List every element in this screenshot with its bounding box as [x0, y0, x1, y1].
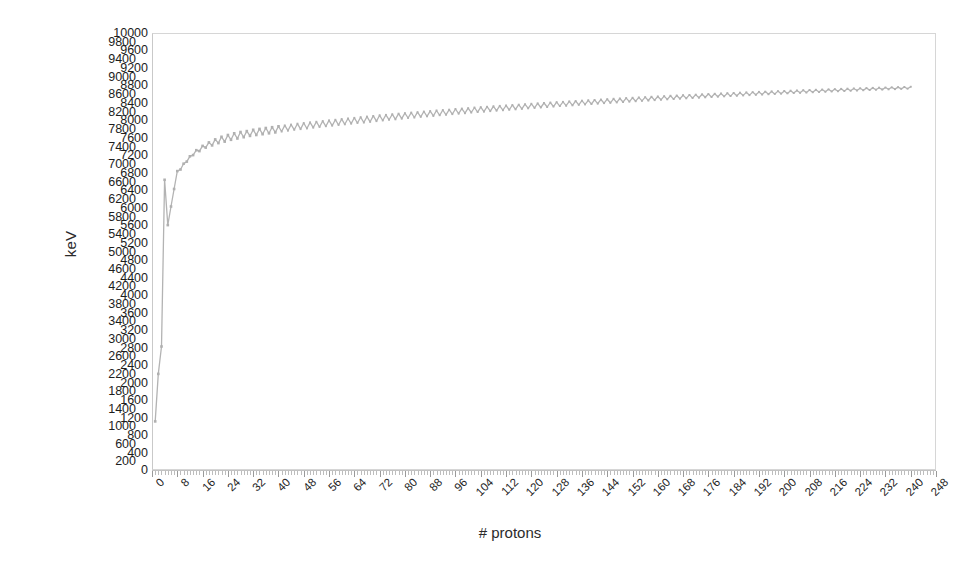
x-minor-tick — [500, 471, 501, 475]
x-minor-tick — [927, 471, 928, 475]
x-major-tick — [380, 471, 381, 477]
x-minor-tick — [320, 471, 321, 475]
x-minor-tick — [547, 471, 548, 475]
x-minor-tick — [313, 471, 314, 475]
x-minor-tick — [863, 471, 864, 475]
x-minor-tick — [282, 471, 283, 475]
x-minor-tick — [563, 471, 564, 475]
x-minor-tick — [459, 471, 460, 475]
x-minor-tick — [620, 471, 621, 475]
x-minor-tick — [263, 471, 264, 475]
x-minor-tick — [184, 471, 185, 475]
x-minor-tick — [794, 471, 795, 475]
x-minor-tick — [847, 471, 848, 475]
x-minor-tick — [161, 471, 162, 475]
x-minor-tick — [813, 471, 814, 475]
x-minor-tick — [598, 471, 599, 475]
x-minor-tick — [256, 471, 257, 475]
x-minor-tick — [370, 471, 371, 475]
x-major-tick — [354, 471, 355, 477]
x-minor-tick — [775, 471, 776, 475]
x-minor-tick — [838, 471, 839, 475]
x-minor-tick — [645, 471, 646, 475]
x-minor-tick — [721, 471, 722, 475]
x-minor-tick — [610, 471, 611, 475]
x-minor-tick — [519, 471, 520, 475]
x-minor-tick — [155, 471, 156, 475]
x-minor-tick — [889, 471, 890, 475]
x-minor-tick — [339, 471, 340, 475]
x-minor-tick — [727, 471, 728, 475]
x-minor-tick — [797, 471, 798, 475]
x-minor-tick — [822, 471, 823, 475]
x-minor-tick — [686, 471, 687, 475]
x-minor-tick — [642, 471, 643, 475]
x-minor-tick — [345, 471, 346, 475]
x-minor-tick — [383, 471, 384, 475]
x-minor-tick — [361, 471, 362, 475]
x-minor-tick — [484, 471, 485, 475]
x-minor-tick — [579, 471, 580, 475]
x-minor-tick — [787, 471, 788, 475]
x-minor-tick — [715, 471, 716, 475]
x-minor-tick — [689, 471, 690, 475]
x-minor-tick — [357, 471, 358, 475]
x-minor-tick — [266, 471, 267, 475]
x-major-tick — [329, 471, 330, 477]
x-minor-tick — [250, 471, 251, 475]
x-minor-tick — [244, 471, 245, 475]
x-major-tick — [506, 471, 507, 477]
x-minor-tick — [791, 471, 792, 475]
x-minor-tick — [781, 471, 782, 475]
x-minor-tick — [285, 471, 286, 475]
x-major-tick — [304, 471, 305, 477]
x-major-tick — [253, 471, 254, 477]
x-minor-tick — [898, 471, 899, 475]
x-minor-tick — [402, 471, 403, 475]
x-minor-tick — [437, 471, 438, 475]
x-minor-tick — [323, 471, 324, 475]
x-minor-tick — [440, 471, 441, 475]
x-major-tick — [455, 471, 456, 477]
x-minor-tick — [288, 471, 289, 475]
x-major-tick — [835, 471, 836, 477]
x-minor-tick — [920, 471, 921, 475]
x-minor-tick — [180, 471, 181, 475]
x-minor-tick — [718, 471, 719, 475]
x-minor-tick — [560, 471, 561, 475]
x-minor-tick — [158, 471, 159, 475]
x-minor-tick — [566, 471, 567, 475]
x-minor-tick — [866, 471, 867, 475]
x-minor-tick — [851, 471, 852, 475]
x-minor-tick — [512, 471, 513, 475]
x-minor-tick — [294, 471, 295, 475]
x-minor-tick — [819, 471, 820, 475]
x-minor-tick — [424, 471, 425, 475]
x-minor-tick — [800, 471, 801, 475]
x-minor-tick — [636, 471, 637, 475]
x-minor-tick — [677, 471, 678, 475]
x-minor-tick — [588, 471, 589, 475]
x-minor-tick — [490, 471, 491, 475]
x-minor-tick — [443, 471, 444, 475]
x-minor-tick — [626, 471, 627, 475]
x-minor-tick — [595, 471, 596, 475]
x-minor-tick — [364, 471, 365, 475]
x-minor-tick — [917, 471, 918, 475]
x-minor-tick — [231, 471, 232, 475]
x-minor-tick — [648, 471, 649, 475]
x-major-tick — [911, 471, 912, 477]
x-minor-tick — [604, 471, 605, 475]
x-minor-tick — [705, 471, 706, 475]
x-minor-tick — [908, 471, 909, 475]
x-minor-tick — [841, 471, 842, 475]
x-minor-tick — [550, 471, 551, 475]
x-minor-tick — [446, 471, 447, 475]
x-minor-tick — [765, 471, 766, 475]
x-minor-tick — [449, 471, 450, 475]
x-minor-tick — [740, 471, 741, 475]
x-minor-tick — [873, 471, 874, 475]
x-minor-tick — [737, 471, 738, 475]
x-major-tick — [228, 471, 229, 477]
x-major-tick — [405, 471, 406, 477]
